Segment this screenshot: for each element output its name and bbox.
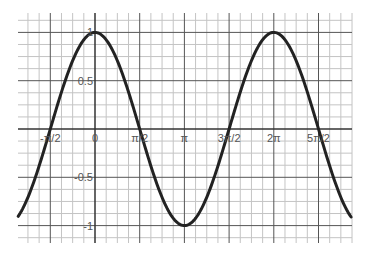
- x-tick-label: -π/2: [40, 132, 60, 144]
- y-tick-label: -1: [83, 220, 93, 232]
- x-tick-label: π/2: [131, 132, 148, 144]
- chart-background: [0, 0, 366, 255]
- x-tick-label: 3π/2: [218, 132, 241, 144]
- y-tick-label: -0.5: [74, 171, 93, 183]
- y-tick-label: 0.5: [78, 75, 93, 87]
- cosine-chart: -π/20π/2π3π/22π5π/2 10.5-0.5-1: [0, 0, 366, 255]
- y-tick-label: 1: [87, 26, 93, 38]
- x-tick-label: 2π: [267, 132, 281, 144]
- x-tick-label: 0: [92, 132, 98, 144]
- x-tick-label: 5π/2: [307, 132, 330, 144]
- x-tick-label: π: [181, 132, 189, 144]
